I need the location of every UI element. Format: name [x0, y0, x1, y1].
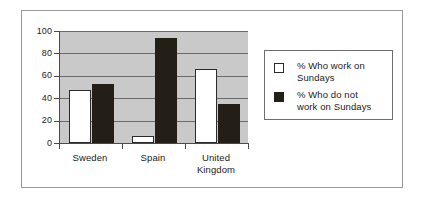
x-tick-3	[248, 144, 249, 149]
y-tick-60	[54, 76, 59, 77]
y-axis-label-80: 80	[12, 49, 52, 58]
legend-label-notwork-line1: % Who do not	[297, 89, 358, 100]
x-tick-2	[185, 144, 186, 149]
y-axis-label-60: 60	[12, 71, 52, 80]
legend-item-work-on-sundays: % Who work on Sundays	[265, 60, 394, 90]
x-axis-label-uk-line2: Kingdom	[177, 164, 255, 176]
y-axis-label-40: 40	[12, 94, 52, 103]
white-square-swatch-icon	[274, 63, 284, 73]
gridline-80	[59, 53, 248, 54]
legend-item-not-work-on-sundays: % Who do not work on Sundays	[265, 89, 394, 119]
y-tick-40	[54, 98, 59, 99]
bar-sweden-work-on-sundays	[69, 90, 91, 143]
x-tick-0	[59, 144, 60, 149]
chart-figure: 100 80 60 40 20 0 Sweden Spain United Ki…	[0, 0, 424, 200]
x-tick-1	[122, 144, 123, 149]
gridline-100	[59, 31, 248, 32]
bar-spain-work-on-sundays	[132, 136, 154, 143]
y-tick-20	[54, 121, 59, 122]
x-axis-label-uk-line1: United	[177, 152, 255, 164]
y-axis-label-0: 0	[12, 139, 52, 148]
bar-united-kingdom-not-work-on-sundays	[218, 104, 240, 143]
x-axis-label-united-kingdom: United Kingdom	[177, 152, 255, 175]
bar-united-kingdom-work-on-sundays	[195, 69, 217, 143]
y-axis-line	[59, 31, 60, 144]
chart-legend: % Who work on Sundays % Who do not work …	[264, 50, 393, 120]
y-tick-80	[54, 53, 59, 54]
legend-label-not-work-on-sundays: % Who do not work on Sundays	[297, 89, 391, 112]
y-axis-label-20: 20	[12, 116, 52, 125]
black-square-swatch-icon	[274, 92, 284, 102]
y-axis-label-100: 100	[12, 27, 52, 36]
legend-label-work-line2: Sundays	[297, 72, 335, 83]
gridline-60	[59, 76, 248, 77]
legend-label-work-on-sundays: % Who work on Sundays	[297, 60, 391, 83]
bar-spain-not-work-on-sundays	[155, 38, 177, 143]
y-tick-100	[54, 31, 59, 32]
bar-chart: 100 80 60 40 20 0 Sweden Spain United Ki…	[0, 0, 424, 200]
x-axis-line	[59, 143, 249, 144]
bar-sweden-not-work-on-sundays	[92, 84, 114, 143]
legend-label-work-line1: % Who work on	[297, 60, 365, 71]
legend-label-notwork-line2: work on Sundays	[297, 101, 371, 112]
